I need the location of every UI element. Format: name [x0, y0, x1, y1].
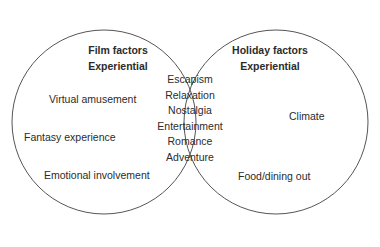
shared-item-adventure: Adventure: [157, 150, 222, 166]
holiday-item-food-dining-out: Food/dining out: [238, 170, 310, 183]
film-item-fantasy-experience: Fantasy experience: [24, 131, 116, 144]
shared-item-relaxation: Relaxation: [157, 88, 222, 104]
shared-item-entertainment: Entertainment: [157, 119, 222, 135]
film-item-emotional-involvement: Emotional involvement: [44, 169, 150, 182]
film-factors-subtitle: Experiential: [88, 60, 148, 73]
holiday-factors-subtitle: Experiential: [240, 60, 300, 73]
intersection-items: Escapism Relaxation Nostalgia Entertainm…: [157, 72, 222, 165]
shared-item-nostalgia: Nostalgia: [157, 103, 222, 119]
shared-item-escapism: Escapism: [157, 72, 222, 88]
shared-item-romance: Romance: [157, 134, 222, 150]
holiday-factors-title: Holiday factors: [232, 44, 308, 57]
holiday-item-climate: Climate: [289, 110, 325, 123]
film-item-virtual-amusement: Virtual amusement: [49, 93, 136, 106]
film-factors-title: Film factors: [88, 44, 148, 57]
